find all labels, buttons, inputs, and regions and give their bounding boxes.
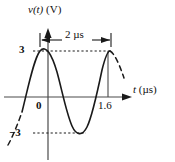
x-axis [4, 93, 132, 100]
positive-amplitude-label: 3 [19, 44, 25, 55]
y-axis-arrowhead-icon [44, 28, 51, 38]
origin-label: 0 [36, 100, 42, 111]
x-axis-arrowhead-icon [122, 93, 132, 100]
time-mark-label: 1.6 [98, 100, 112, 111]
x-axis-label-unit: (µs) [139, 83, 157, 95]
negative-amplitude-label: −3 [9, 127, 21, 138]
waveform-curve [22, 49, 110, 134]
y-axis-label-argument: (t) [33, 3, 43, 15]
y-axis-label-unit: (V) [46, 3, 61, 15]
x-axis-label: t (µs) [133, 84, 157, 95]
period-label: 2 µs [65, 29, 84, 40]
y-axis-label: v(t) (V) [28, 4, 61, 15]
period-arrowhead-right-icon [101, 37, 110, 43]
waveform-dashed-extension-right [110, 51, 124, 78]
waveform-figure: v(t) (V) t (µs) 2 µs 3 −3 0 1.6 [0, 0, 175, 162]
y-axis [44, 28, 51, 160]
waveform-plot-svg [0, 0, 175, 162]
x-axis-label-variable: t [133, 83, 136, 95]
